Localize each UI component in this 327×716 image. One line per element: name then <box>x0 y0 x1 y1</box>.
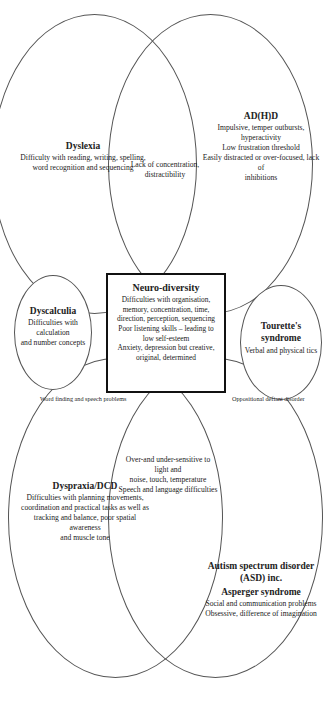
dyspraxia-line: Difficulties with planning movements, <box>20 493 150 503</box>
dyslexia-adhd-overlap-text: Lack of concentration, distractibility <box>125 160 205 180</box>
dyscalculia-text: Dyscalculia Difficulties with calculatio… <box>17 305 89 348</box>
dyspraxia-line: and muscle tone <box>20 533 150 543</box>
dyspraxia-asd-overlap-text: Over-and under-sensitive to light and no… <box>118 455 218 494</box>
word-finding-label: Word finding and speech problems <box>40 395 126 402</box>
adhd-line: Easily distracted or over-focused, lack … <box>200 153 322 173</box>
asd-line: Social and communication problems <box>200 599 322 609</box>
tourettes-title: Tourette's syndrome <box>243 320 319 345</box>
adhd-line: inhibitions <box>200 173 322 183</box>
dyscalculia-title: Dyscalculia <box>17 305 89 317</box>
asd-subtitle: Asperger syndrome <box>200 586 322 598</box>
overlap-line: Speech and language difficulties <box>118 485 218 495</box>
dyscalculia-line: and number concepts <box>17 338 89 348</box>
overlap-line: Over-and under-sensitive to light and <box>118 455 218 475</box>
adhd-text: AD(H)D Impulsive, temper outbursts, hype… <box>200 110 322 183</box>
dyscalculia-line: Difficulties with calculation <box>17 318 89 338</box>
neurodiversity-line: memory, concentration, time, <box>111 305 221 315</box>
asd-line: Obsessive, difference of imagination <box>200 609 322 619</box>
neurodiversity-line: Anxiety, depression but creative, <box>111 343 221 353</box>
dyslexia-title: Dyslexia <box>18 140 148 152</box>
dyspraxia-line: tracking and balance, poor spatial aware… <box>20 513 150 533</box>
asd-text: Autism spectrum disorder (ASD) inc. Aspe… <box>200 560 322 619</box>
neurodiversity-line: low self-esteem <box>111 334 221 344</box>
overlap-line: distractibility <box>125 170 205 180</box>
oppositional-label: Oppositional defiant disorder <box>232 395 305 402</box>
overlap-line: Lack of concentration, <box>125 160 205 170</box>
adhd-line: Low frustration threshold <box>200 143 322 153</box>
neurodiversity-line: Difficulties with organisation, <box>111 295 221 305</box>
neurodiversity-line: Poor listening skills – leading to <box>111 324 221 334</box>
tourettes-line: Verbal and physical tics <box>243 346 319 356</box>
asd-title: Autism spectrum disorder (ASD) inc. <box>200 560 322 585</box>
adhd-title: AD(H)D <box>200 110 322 122</box>
tourettes-text: Tourette's syndrome Verbal and physical … <box>243 320 319 356</box>
neurodiversity-box: Neuro-diversity Difficulties with organi… <box>106 273 226 393</box>
adhd-line: Impulsive, temper outbursts, hyperactivi… <box>200 123 322 143</box>
neurodiversity-title: Neuro-diversity <box>111 281 221 294</box>
overlap-line: noise, touch, temperature <box>118 475 218 485</box>
neurodiversity-line: original, determined <box>111 353 221 363</box>
dyspraxia-line: coordination and practical tasks as well… <box>20 503 150 513</box>
neurodiversity-line: direction, perception, sequencing <box>111 314 221 324</box>
